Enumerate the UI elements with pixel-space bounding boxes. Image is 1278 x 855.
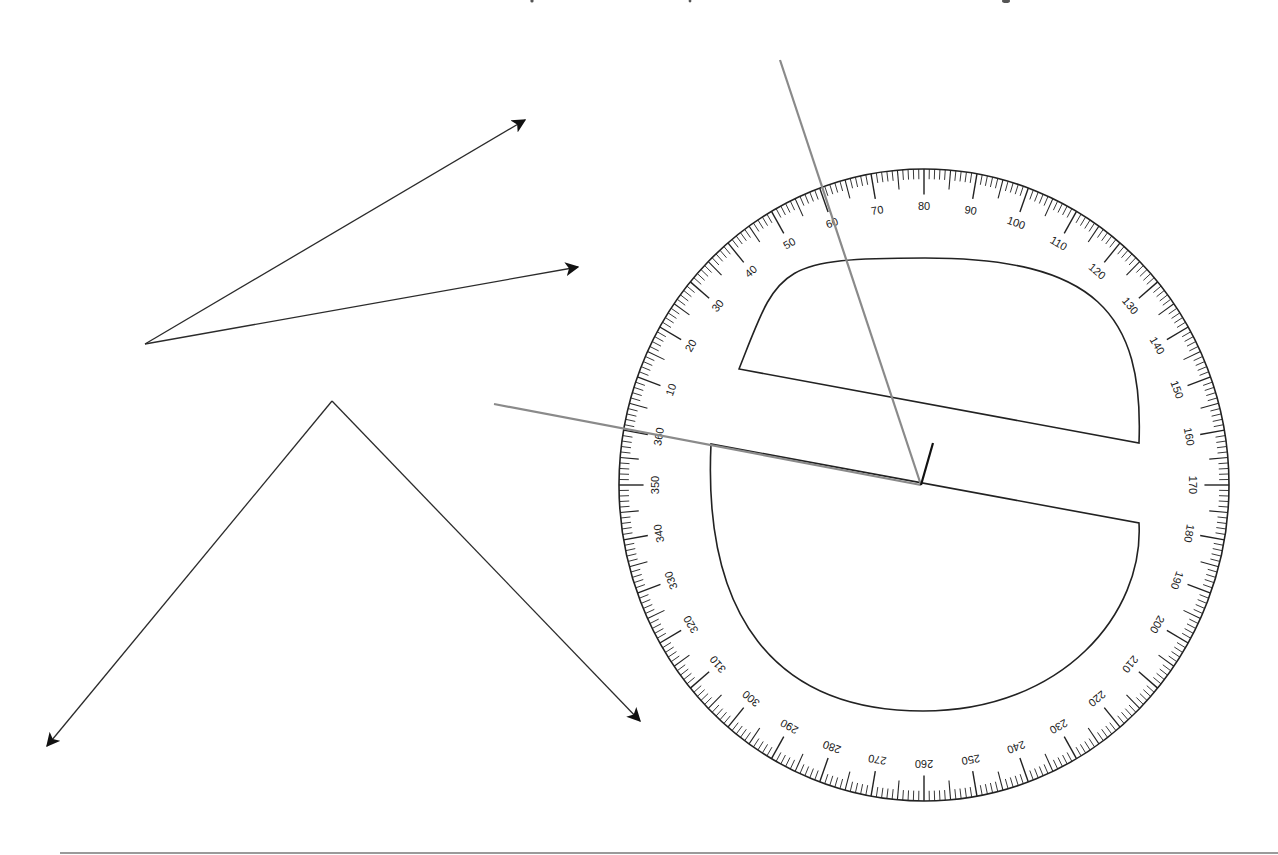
degree-label: 140 — [1148, 334, 1168, 356]
tick-mark — [1010, 777, 1013, 787]
tick-mark — [645, 356, 654, 360]
tick-mark — [671, 656, 679, 662]
tick-mark — [694, 278, 701, 285]
tick-mark — [631, 398, 640, 401]
tick-mark — [973, 771, 977, 796]
tick-mark — [786, 203, 790, 212]
tick-mark — [1198, 367, 1207, 371]
tick-mark — [1157, 290, 1165, 296]
tick-mark — [655, 629, 664, 634]
tick-mark — [1167, 327, 1188, 340]
tick-mark — [1064, 211, 1076, 233]
tick-mark — [1198, 600, 1207, 604]
tick-mark — [749, 226, 760, 242]
protractor-vertex-mark — [921, 443, 933, 485]
tick-mark — [643, 362, 652, 366]
tick-mark — [781, 755, 786, 764]
tick-mark — [1200, 535, 1224, 539]
tick-mark — [643, 604, 652, 608]
tick-mark — [680, 295, 688, 301]
tick-mark — [1169, 656, 1177, 662]
degree-label: 100 — [1005, 214, 1026, 232]
tick-mark — [680, 669, 688, 675]
tick-mark — [671, 308, 679, 314]
degree-label: 10 — [663, 382, 678, 398]
tick-mark — [1110, 723, 1116, 731]
tick-mark — [701, 269, 708, 276]
tick-mark — [657, 633, 666, 638]
tick-mark — [1058, 203, 1062, 212]
tick-mark — [892, 171, 893, 181]
tick-mark — [1153, 286, 1161, 292]
degree-label: 290 — [778, 717, 800, 737]
tick-mark — [1163, 299, 1171, 305]
tick-mark — [1217, 522, 1227, 523]
tick-mark — [665, 647, 673, 652]
tick-mark — [1213, 549, 1223, 551]
tick-mark — [1206, 574, 1215, 577]
tick-mark — [1182, 332, 1191, 337]
tick-mark — [871, 771, 875, 796]
tick-mark — [1085, 220, 1090, 229]
tick-mark — [684, 673, 692, 679]
tick-mark — [790, 201, 794, 210]
tick-mark — [1216, 533, 1226, 535]
tick-mark — [619, 501, 629, 502]
tick-mark — [908, 169, 909, 179]
tick-mark — [620, 511, 639, 513]
tick-mark — [960, 171, 961, 181]
tick-mark — [1218, 463, 1228, 464]
tick-mark — [1214, 543, 1224, 545]
tick-mark — [1163, 665, 1171, 671]
tick-mark — [772, 211, 784, 233]
tick-mark — [1030, 190, 1034, 200]
tick-mark — [903, 170, 904, 180]
diagram-canvas: 1020304050607080901001101201301401501601… — [0, 0, 1278, 855]
tick-mark — [871, 174, 875, 199]
tick-mark — [955, 789, 956, 799]
tick-mark — [650, 619, 659, 623]
tick-mark — [845, 180, 850, 199]
tick-mark — [939, 790, 940, 800]
tick-mark — [677, 299, 685, 305]
top-text-remnants — [530, 0, 1010, 3]
tick-mark — [728, 243, 744, 262]
tick-mark — [1216, 441, 1226, 442]
tick-mark — [660, 630, 681, 643]
tick-mark — [657, 332, 666, 337]
tick-mark — [1174, 647, 1182, 652]
tick-mark — [639, 595, 648, 599]
tick-mark — [674, 655, 689, 666]
protractor[interactable]: 1020304050607080901001101201301401501601… — [619, 169, 1229, 801]
tick-mark — [708, 262, 721, 276]
tick-mark — [998, 772, 1003, 791]
tick-mark — [1015, 776, 1018, 786]
tick-mark — [626, 549, 636, 551]
tick-mark — [720, 250, 727, 258]
degree-label: 80 — [918, 200, 930, 212]
tick-mark — [1104, 243, 1120, 262]
tick-mark — [835, 183, 838, 193]
tick-mark — [786, 757, 790, 766]
tick-mark — [758, 220, 763, 229]
tick-mark — [1035, 769, 1039, 778]
tick-mark — [1209, 457, 1228, 459]
tick-mark — [712, 258, 719, 265]
tick-mark — [636, 382, 645, 385]
tick-mark — [674, 304, 689, 315]
tick-mark — [781, 206, 786, 215]
tick-mark — [1177, 643, 1185, 648]
tick-mark — [1216, 436, 1226, 438]
tick-mark — [990, 177, 992, 187]
tick-mark — [990, 783, 992, 793]
tick-mark — [684, 290, 692, 296]
tick-mark — [628, 559, 638, 561]
tick-mark — [1140, 694, 1147, 701]
angle-2-ray-2 — [332, 401, 640, 721]
tick-mark — [892, 789, 893, 799]
tick-mark — [623, 533, 633, 535]
tick-mark — [740, 233, 746, 241]
tick-mark — [1039, 194, 1043, 203]
tick-mark — [980, 175, 982, 185]
tick-mark — [1063, 755, 1068, 764]
